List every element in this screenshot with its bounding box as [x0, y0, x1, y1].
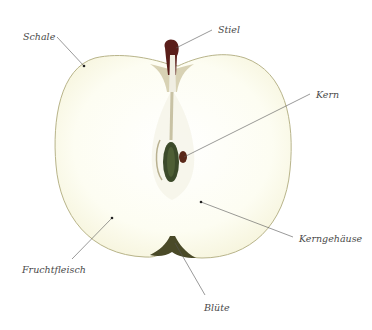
label-bluete: Blüte	[204, 303, 230, 313]
core-strand	[171, 92, 172, 140]
label-schale: Schale	[23, 32, 55, 42]
label-fruchtfleisch: Fruchtfleisch	[22, 265, 86, 275]
label-stiel: Stiel	[218, 25, 240, 35]
label-kern: Kern	[316, 90, 339, 100]
stem-pith	[169, 55, 176, 92]
apple-cross-section-diagram	[0, 0, 372, 330]
label-kerngehaeuse: Kerngehäuse	[299, 234, 362, 244]
seed-highlight	[167, 147, 175, 177]
kern-brown-seed	[179, 151, 187, 163]
leader-schale	[57, 37, 84, 66]
leader-stiel	[176, 30, 212, 48]
